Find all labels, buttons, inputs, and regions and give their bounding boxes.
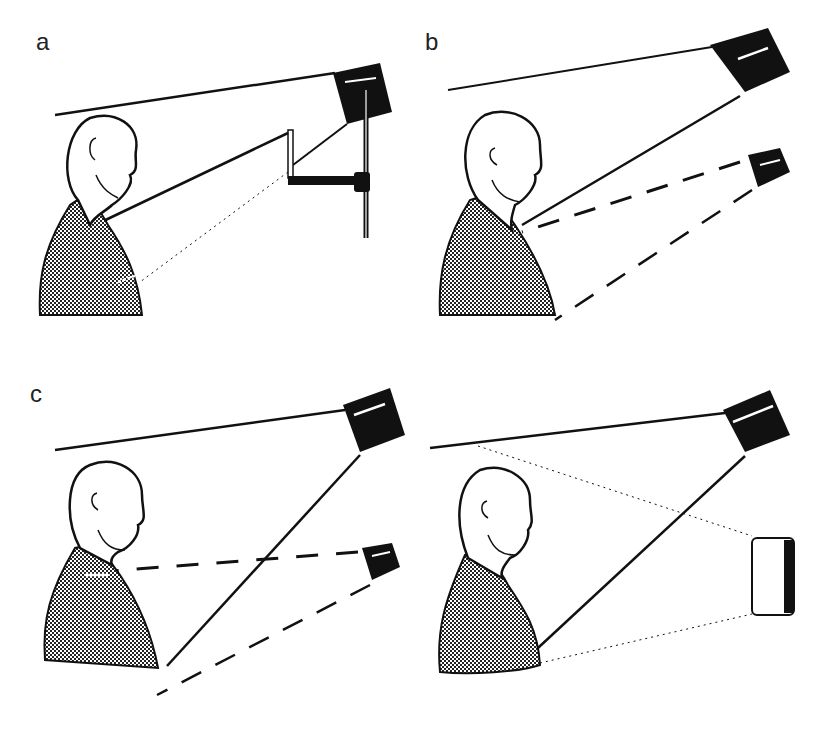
panel-b	[440, 28, 790, 320]
mirror-icon	[288, 130, 293, 178]
beam-line	[55, 410, 345, 450]
camera-icon	[748, 148, 790, 187]
beam-line	[430, 413, 725, 448]
diagram-canvas	[0, 0, 831, 732]
beam-line	[55, 73, 335, 115]
camera-icon	[362, 543, 400, 580]
person-figure	[439, 468, 540, 673]
panel-a	[40, 63, 392, 315]
beam-line	[448, 47, 712, 90]
person-figure	[40, 116, 142, 315]
projector-icon	[343, 388, 405, 452]
panel-d	[430, 390, 794, 673]
projector-icon	[333, 63, 392, 124]
person-figure	[44, 462, 158, 668]
person-figure	[440, 112, 555, 315]
projector-icon	[710, 28, 790, 92]
panel-c	[44, 388, 405, 695]
